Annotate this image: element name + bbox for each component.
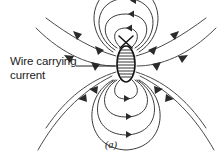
arrow-outer-upper-right — [170, 31, 179, 40]
field-line-lower-1 — [115, 80, 138, 99]
arrow-outer-right-mid-near — [152, 62, 161, 71]
arrow-upper-loop-3 — [130, 0, 136, 4]
arrow-lower-loop-3 — [126, 131, 132, 138]
upper-field-loops — [94, 0, 158, 52]
arrow-lower-loop-2 — [126, 113, 132, 120]
arrow-outer-mid-right — [178, 55, 188, 63]
figure-magnetic-field-around-current-carrying-wire: Wire carrying current (a) — [0, 0, 222, 159]
arrow-upper-loop-2 — [128, 11, 134, 18]
arrow-outer-right-near — [148, 46, 157, 55]
coil-cross-section — [117, 36, 135, 82]
arrow-upper-loop-1 — [126, 25, 132, 32]
arrow-outer-left-near — [95, 46, 104, 55]
field-line-upper-1 — [115, 28, 138, 47]
field-line-outer-upper-left — [46, 18, 116, 56]
field-line-outer-upper-right — [136, 18, 206, 56]
arrow-outer-upper-left — [73, 31, 82, 40]
outer-field-lines — [36, 18, 216, 150]
wire-carrying-current-label: Wire carrying current — [10, 55, 82, 82]
figure-caption: (a) — [0, 139, 222, 150]
arrow-lower-loop-1 — [124, 95, 130, 102]
